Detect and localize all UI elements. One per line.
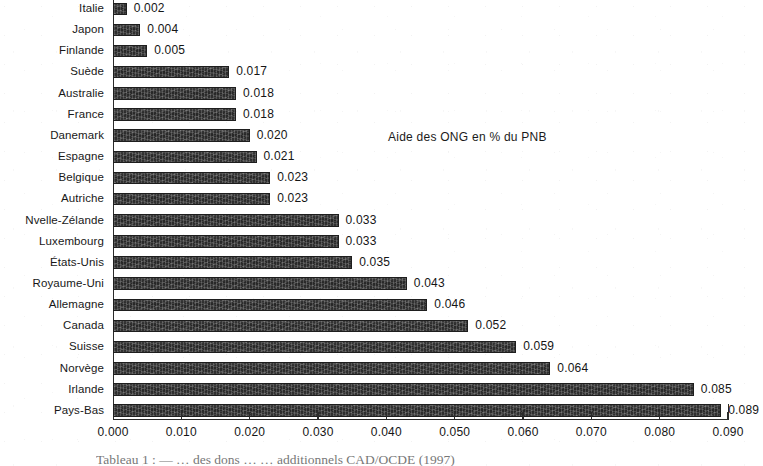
category-label: Autriche — [0, 188, 104, 209]
bar-value-label: 0.046 — [434, 294, 465, 315]
bar — [113, 320, 468, 333]
bar — [113, 66, 229, 79]
bar-row: Luxembourg0.033 — [0, 231, 763, 252]
bar-row: Pays-Bas0.089 — [0, 400, 763, 421]
x-axis-tick-label: 0.000 — [97, 425, 128, 439]
bar-fill — [113, 24, 140, 37]
category-label: Canada — [0, 315, 104, 336]
bar-fill — [113, 108, 236, 121]
bar-value-label: 0.033 — [346, 210, 377, 231]
figure-caption-clipped: Tableau 1 : — … des dons … … additionnel… — [0, 455, 763, 466]
bar-value-label: 0.018 — [243, 104, 274, 125]
bar — [113, 214, 339, 227]
bar — [113, 404, 721, 417]
bar-fill — [113, 341, 516, 354]
bar-value-label: 0.004 — [147, 19, 178, 40]
bar-row: Italie0.002 — [0, 0, 763, 19]
bar-row: Nvelle-Zélande0.033 — [0, 210, 763, 231]
bar-row: Australie0.018 — [0, 83, 763, 104]
bar-value-label: 0.059 — [523, 336, 554, 357]
bar-fill — [113, 299, 427, 312]
bar-fill — [113, 151, 257, 164]
bar-row: Irlande0.085 — [0, 379, 763, 400]
bar-value-label: 0.064 — [557, 358, 588, 379]
x-axis-tick-label: 0.080 — [644, 425, 675, 439]
x-axis-tick-label: 0.020 — [234, 425, 265, 439]
bar-row: Belgique0.023 — [0, 167, 763, 188]
bar-value-label: 0.017 — [236, 61, 267, 82]
bar-value-label: 0.020 — [257, 125, 288, 146]
bar — [113, 383, 694, 396]
bar-value-label: 0.002 — [134, 0, 165, 19]
bar-fill — [113, 277, 407, 290]
x-axis-tick — [181, 412, 182, 420]
bar-row: Norvège0.064 — [0, 358, 763, 379]
bar-chart: Italie0.002Japon0.004Finlande0.005Suède0… — [0, 0, 763, 466]
bar-value-label: 0.033 — [346, 231, 377, 252]
bar-fill — [113, 404, 721, 417]
bar — [113, 277, 407, 290]
x-axis-tick — [454, 412, 455, 420]
bar-row: France0.018 — [0, 104, 763, 125]
x-axis-tick — [727, 412, 728, 420]
x-axis-tick-label: 0.060 — [507, 425, 538, 439]
bar-row: Autriche0.023 — [0, 188, 763, 209]
bar — [113, 24, 140, 37]
x-axis-tick-label: 0.040 — [371, 425, 402, 439]
bar — [113, 362, 550, 375]
bar-fill — [113, 66, 229, 79]
bar-value-label: 0.085 — [701, 379, 732, 400]
bar — [113, 87, 236, 100]
category-label: Suisse — [0, 336, 104, 357]
x-axis-tick — [591, 412, 592, 420]
bar-value-label: 0.052 — [475, 315, 506, 336]
bar-fill — [113, 383, 694, 396]
bar — [113, 193, 270, 206]
category-label: Royaume-Uni — [0, 273, 104, 294]
category-label: Norvège — [0, 358, 104, 379]
bar-fill — [113, 193, 270, 206]
bar-row: Suède0.017 — [0, 61, 763, 82]
bar — [113, 299, 427, 312]
bar — [113, 151, 257, 164]
category-label: Danemark — [0, 125, 104, 146]
bar — [113, 3, 127, 16]
bar-value-label: 0.023 — [277, 188, 308, 209]
bar-row: Royaume-Uni0.043 — [0, 273, 763, 294]
bar-fill — [113, 45, 147, 58]
bar-fill — [113, 214, 339, 227]
bar-value-label: 0.021 — [264, 146, 295, 167]
bar-fill — [113, 3, 127, 16]
category-label: États-Unis — [0, 252, 104, 273]
bar-row: Japon0.004 — [0, 19, 763, 40]
category-label: France — [0, 104, 104, 125]
x-axis-tick-label: 0.030 — [302, 425, 333, 439]
bar-fill — [113, 172, 270, 185]
figure-caption-text: Tableau 1 : — … des dons … … additionnel… — [96, 455, 455, 466]
bar-fill — [113, 256, 352, 269]
category-label: Espagne — [0, 146, 104, 167]
bar — [113, 256, 352, 269]
bar-row: Danemark0.020 — [0, 125, 763, 146]
category-label: Nvelle-Zélande — [0, 210, 104, 231]
category-label: Italie — [0, 0, 104, 19]
bar — [113, 172, 270, 185]
category-label: Irlande — [0, 379, 104, 400]
category-label: Australie — [0, 83, 104, 104]
x-axis-tick — [317, 412, 318, 420]
bar-value-label: 0.023 — [277, 167, 308, 188]
bar-value-label: 0.089 — [728, 400, 759, 421]
category-label: Suède — [0, 61, 104, 82]
bar-value-label: 0.005 — [154, 40, 185, 61]
bar-fill — [113, 235, 339, 248]
category-label: Pays-Bas — [0, 400, 104, 421]
bar — [113, 108, 236, 121]
bar-value-label: 0.035 — [359, 252, 390, 273]
bar-row: Canada0.052 — [0, 315, 763, 336]
bar — [113, 129, 250, 142]
x-axis-tick — [522, 412, 523, 420]
bar-value-label: 0.018 — [243, 83, 274, 104]
bar-fill — [113, 320, 468, 333]
category-label: Allemagne — [0, 294, 104, 315]
bar-row: Espagne0.021 — [0, 146, 763, 167]
